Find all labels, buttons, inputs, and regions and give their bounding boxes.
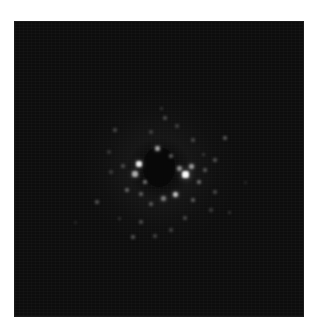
diffraction-spot xyxy=(169,228,173,232)
diffraction-spot xyxy=(143,180,147,184)
diffraction-spot xyxy=(175,124,179,128)
diffraction-spot xyxy=(183,216,187,220)
diffraction-spot xyxy=(125,188,129,192)
diffraction-spot xyxy=(223,136,227,140)
diffraction-spot xyxy=(244,181,247,184)
diffraction-spot xyxy=(163,116,167,120)
diffraction-spot xyxy=(149,130,153,134)
diffraction-spot xyxy=(228,211,231,214)
diffraction-spot xyxy=(95,200,99,204)
diffraction-spot xyxy=(191,138,195,142)
diffraction-spot xyxy=(203,168,207,172)
diffraction-spot xyxy=(121,164,125,168)
diffraction-spot xyxy=(169,154,173,158)
diffraction-spot xyxy=(202,153,205,156)
diffraction-spot xyxy=(161,196,166,201)
diffraction-spot xyxy=(136,161,142,167)
diffraction-spot xyxy=(213,190,217,194)
diffraction-spot xyxy=(209,208,213,212)
diffraction-spot xyxy=(107,150,111,154)
diffraction-spot xyxy=(139,220,143,224)
diffraction-spot xyxy=(118,217,121,220)
dark-center xyxy=(143,147,175,187)
diffraction-spot xyxy=(213,158,217,162)
diffraction-image xyxy=(15,22,303,316)
diffraction-spot xyxy=(191,198,195,202)
diffraction-spot xyxy=(131,235,135,239)
diffraction-spot xyxy=(173,192,178,197)
diffraction-spot xyxy=(113,128,117,132)
diffraction-spot xyxy=(149,202,153,206)
diffraction-spot xyxy=(177,166,182,171)
diffraction-spot xyxy=(153,234,157,238)
diffraction-spot xyxy=(155,146,160,151)
diffraction-spot xyxy=(109,170,113,174)
diffraction-spot xyxy=(197,180,201,184)
diffraction-spot xyxy=(189,164,194,169)
diffraction-spot xyxy=(182,171,189,178)
diffraction-spot xyxy=(139,192,143,196)
diffraction-spot xyxy=(160,107,163,110)
diffraction-spot xyxy=(132,171,138,177)
diffraction-spot xyxy=(74,221,77,224)
